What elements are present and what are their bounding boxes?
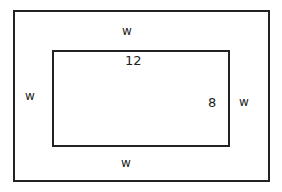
left-border-width-label: w (25, 90, 35, 102)
inner-width-label: 8 (208, 97, 216, 109)
bottom-border-width-label: w (121, 157, 131, 169)
inner-length-label: 12 (125, 55, 142, 67)
top-border-width-label: w (122, 25, 132, 37)
right-border-width-label: w (239, 96, 249, 108)
